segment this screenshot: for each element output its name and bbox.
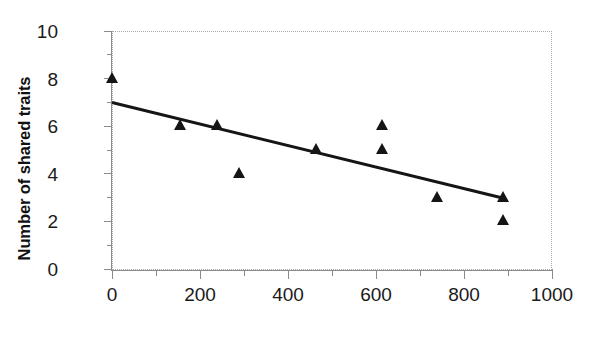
data-point-marker: [431, 191, 443, 202]
data-point-marker: [174, 119, 186, 130]
data-point-marker: [106, 72, 118, 83]
data-point-marker: [376, 119, 388, 130]
data-point-marker: [211, 119, 223, 130]
trendline: [112, 101, 502, 199]
data-point-marker: [310, 143, 322, 154]
chart-screenshot: Number of shared traits 0246810020040060…: [0, 0, 614, 337]
data-series-layer: [0, 0, 614, 337]
data-point-marker: [497, 191, 509, 202]
data-point-marker: [497, 214, 509, 225]
data-point-marker: [376, 143, 388, 154]
data-point-marker: [233, 167, 245, 178]
